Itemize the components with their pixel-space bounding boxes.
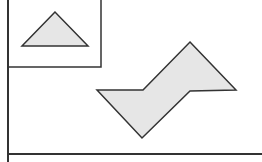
diagram-canvas — [0, 0, 262, 162]
triangle-shape — [22, 12, 88, 46]
lightning-shape — [97, 42, 236, 138]
